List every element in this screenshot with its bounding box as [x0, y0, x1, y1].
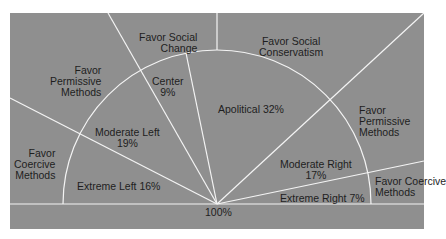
- label-left-coercive: Favor Coercive Methods: [14, 148, 55, 181]
- label-extreme-right: Extreme Right 7%: [280, 193, 365, 204]
- label-left-permissive: Favor Permissive Methods: [50, 65, 101, 98]
- label-right-coercive: Favor Coercive Methods: [375, 176, 446, 198]
- label-moderate-left: Moderate Left 19%: [95, 127, 160, 149]
- label-apolitical: Apolitical 32%: [218, 104, 284, 115]
- label-social-change: Favor Social Change: [139, 32, 197, 54]
- label-social-conservatism: Favor Social Conservatism: [259, 36, 323, 58]
- label-total: 100%: [205, 207, 232, 218]
- label-center: Center 9%: [152, 76, 184, 98]
- label-moderate-right: Moderate Right 17%: [280, 159, 352, 181]
- label-extreme-left: Extreme Left 16%: [77, 181, 160, 192]
- label-right-permissive: Favor Permissive Methods: [359, 105, 410, 138]
